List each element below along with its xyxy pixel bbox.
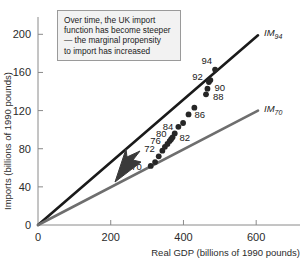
data-point xyxy=(148,163,154,169)
data-point xyxy=(207,77,213,83)
data-point-label: 86 xyxy=(195,109,206,120)
annotation-note-line-1: Over time, the UK import xyxy=(64,15,175,25)
line-label-IM94: IM94 xyxy=(264,27,282,40)
annotation-note-line-2: function has become steeper xyxy=(64,25,175,35)
line-IM94 xyxy=(38,35,258,225)
data-point xyxy=(175,124,181,130)
data-point-label: 92 xyxy=(192,71,203,82)
annotation-note: Over time, the UK import function has be… xyxy=(57,10,181,61)
data-point-label: 84 xyxy=(163,121,174,132)
data-point-labels: 7072768082848688909294 xyxy=(131,55,225,172)
data-point xyxy=(203,91,209,97)
x-tick-label: 200 xyxy=(102,231,120,243)
y-tick-label: 120 xyxy=(13,105,31,117)
data-point xyxy=(180,120,186,126)
x-tick-label: 400 xyxy=(174,231,192,243)
line-label-IM70: IM70 xyxy=(264,103,282,116)
x-tick-label: 0 xyxy=(35,231,41,243)
y-tick-label: 160 xyxy=(13,66,31,78)
data-point-label: 90 xyxy=(214,82,225,93)
line-labels: IM94IM70 xyxy=(264,27,282,115)
data-point-label: 94 xyxy=(202,55,213,66)
data-point-label: 88 xyxy=(213,91,224,102)
x-tick-label: 600 xyxy=(247,231,265,243)
chart-figure: 0200400600 04080120160200 IM94IM70 70727… xyxy=(0,0,306,264)
data-point xyxy=(186,111,192,117)
data-point-label: 82 xyxy=(180,132,191,143)
annotation-note-line-3: — the marginal propensity xyxy=(64,35,175,45)
y-tick-label: 80 xyxy=(19,143,31,155)
annotation-note-line-4: to import has increased xyxy=(64,46,175,56)
data-point xyxy=(212,67,218,73)
data-point xyxy=(205,86,211,92)
x-axis-title: Real GDP (billions of 1990 pounds) xyxy=(151,247,300,258)
y-tick-label: 40 xyxy=(19,181,31,193)
data-point xyxy=(156,153,162,159)
data-point xyxy=(152,159,158,165)
y-tick-label: 200 xyxy=(13,28,31,40)
y-axis-title: Imports (billions of 1990 pounds) xyxy=(2,72,13,210)
import-function-lines xyxy=(38,35,258,225)
y-tick-label: 0 xyxy=(25,219,31,231)
data-points xyxy=(148,67,218,169)
line-IM70 xyxy=(38,111,258,225)
x-axis-ticks: 0200400600 xyxy=(35,220,265,243)
